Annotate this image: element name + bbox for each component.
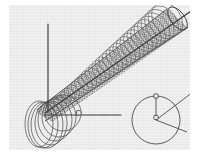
figure-root: Helical coil wrapped on a cone A helix o… [0,0,198,162]
oblique-axis [45,11,191,113]
figure-drawing [0,0,198,162]
inset-center-marker [154,115,158,119]
diagram-svg [0,0,198,162]
inset-generating-circle [132,92,193,144]
inset-rim-marker [154,94,158,98]
point-marker-main [77,111,81,115]
inset-ray-lower [156,120,187,132]
